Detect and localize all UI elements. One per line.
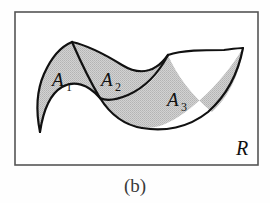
label-A3-subscript: 3: [181, 100, 187, 114]
set-diagram-svg: A 1 A 2 A 3 R (b): [0, 0, 270, 203]
label-A2: A: [99, 69, 113, 90]
figure-container: A 1 A 2 A 3 R (b): [0, 0, 270, 203]
label-A3: A: [165, 89, 179, 110]
label-universe-R: R: [235, 137, 248, 159]
label-A2-subscript: 2: [115, 80, 121, 94]
label-A1: A: [50, 69, 64, 90]
figure-caption: (b): [124, 175, 146, 197]
label-A1-subscript: 1: [66, 80, 72, 94]
